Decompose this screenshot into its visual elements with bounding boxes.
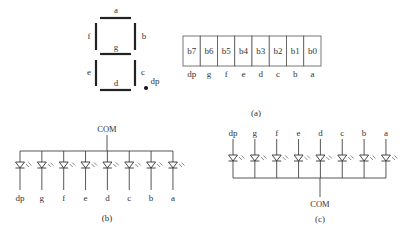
segment-label-b: c	[127, 193, 131, 203]
led-a-c	[381, 155, 397, 161]
label-b: b	[142, 31, 147, 41]
label-d: d	[114, 78, 119, 88]
bit-label: b7	[187, 46, 197, 56]
led-c-b	[125, 162, 141, 168]
label-f: f	[88, 31, 91, 41]
led-g-c	[250, 155, 266, 161]
segment-dp	[144, 86, 148, 90]
segment-label-b: b	[149, 193, 154, 203]
label-c: c	[141, 67, 145, 77]
led-g-b	[37, 162, 53, 168]
bit-segment-label: f	[225, 69, 228, 79]
caption-a: (a)	[251, 108, 261, 118]
led-f-c	[272, 155, 288, 161]
segment-label-b: f	[62, 193, 65, 203]
common-cathode-circuit: COM dpgfedcba	[229, 128, 398, 209]
com-label-c: COM	[310, 199, 330, 209]
bit-segment-label: d	[258, 69, 263, 79]
caption-c: (c)	[315, 214, 325, 224]
label-dp: dp	[151, 76, 161, 86]
bit-segment-label: b	[293, 69, 298, 79]
bit-label: b3	[256, 46, 266, 56]
bit-label: b2	[273, 46, 282, 56]
led-f-b	[59, 162, 75, 168]
led-a-b	[168, 162, 184, 168]
led-dp-c	[229, 155, 245, 161]
bit-label: b1	[291, 46, 300, 56]
bit-label: b0	[308, 46, 318, 56]
segment-label-c: f	[275, 128, 278, 138]
segment-label-c: g	[253, 128, 258, 138]
bit-segment-label: dp	[187, 69, 197, 79]
bit-table: b7dpb6gb5fb4eb3db2cb1bb0a	[183, 36, 321, 79]
caption-b: (b)	[102, 213, 113, 223]
segment-label-c: c	[340, 128, 344, 138]
segment-label-b: dp	[16, 193, 26, 203]
led-e-c	[294, 155, 310, 161]
com-label-b: COM	[97, 124, 117, 134]
segment-label-c: dp	[229, 128, 239, 138]
seven-segment-diagram: a f b g e c d dp b7dpb6gb5fb4eb3db2cb1bb…	[0, 0, 408, 232]
bit-label: b6	[204, 46, 214, 56]
led-e-b	[81, 162, 97, 168]
segment-label-b: e	[84, 193, 88, 203]
segment-label-c: e	[297, 128, 301, 138]
led-c-c	[338, 155, 354, 161]
segment-label-b: a	[171, 193, 175, 203]
led-b-b	[147, 162, 163, 168]
seven-segment-display: a f b g e c d dp	[87, 5, 160, 90]
bit-segment-label: c	[276, 69, 280, 79]
led-d-c	[316, 155, 332, 161]
segment-label-b: d	[105, 193, 110, 203]
label-e: e	[87, 67, 91, 77]
bit-segment-label: e	[241, 69, 245, 79]
bit-label: b4	[239, 46, 249, 56]
label-a: a	[114, 5, 118, 15]
bit-segment-label: g	[207, 69, 212, 79]
common-anode-circuit: COM dpgfedcba	[16, 124, 185, 203]
bit-label: b5	[222, 46, 232, 56]
led-dp-b	[16, 162, 32, 168]
segment-label-c: d	[318, 128, 323, 138]
segment-label-b: g	[40, 193, 45, 203]
segment-label-c: a	[384, 128, 388, 138]
label-g: g	[114, 42, 119, 52]
bit-segment-label: a	[310, 69, 314, 79]
led-d-b	[103, 162, 119, 168]
led-b-c	[360, 155, 376, 161]
segment-label-c: b	[362, 128, 367, 138]
